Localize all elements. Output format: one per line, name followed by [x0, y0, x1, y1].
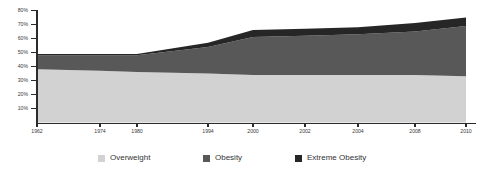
x-tick-label: 1962: [24, 129, 50, 134]
legend-label: Obesity: [215, 154, 242, 162]
area-series-overweight: [37, 69, 466, 122]
x-tick-label: 1980: [124, 129, 150, 134]
y-tick-mark: [31, 52, 36, 53]
x-tick-label: 2008: [402, 129, 428, 134]
x-tick-label: 1994: [195, 129, 221, 134]
y-tick-mark: [31, 38, 36, 39]
legend-swatch-icon: [98, 155, 105, 162]
x-tick-label: 2010: [453, 129, 479, 134]
legend-swatch-icon: [203, 155, 210, 162]
y-tick-mark: [31, 80, 36, 81]
y-tick-mark: [31, 94, 36, 95]
legend-item-obesity[interactable]: Obesity: [203, 154, 242, 162]
legend-label: Overweight: [110, 154, 150, 162]
x-axis-line: [36, 123, 476, 125]
chart-legend: OverweightObesityExtreme Obesity: [0, 150, 496, 172]
y-tick-mark: [31, 66, 36, 67]
y-tick-label: 40%: [4, 64, 28, 69]
x-tick-mark: [304, 123, 305, 127]
x-tick-label: 1974: [87, 129, 113, 134]
y-tick-label: 80%: [4, 8, 28, 13]
y-tick-mark: [31, 10, 36, 11]
x-tick-label: 2004: [345, 129, 371, 134]
y-axis-line: [36, 10, 38, 124]
legend-item-overweight[interactable]: Overweight: [98, 154, 150, 162]
area-series-group: [0, 0, 496, 133]
x-tick-label: 2000: [240, 129, 266, 134]
y-tick-label: 10%: [4, 106, 28, 111]
y-tick-label: 70%: [4, 22, 28, 27]
x-tick-mark: [99, 123, 100, 127]
legend-item-extreme-obesity[interactable]: Extreme Obesity: [295, 154, 366, 162]
x-tick-mark: [252, 123, 253, 127]
x-tick-mark: [207, 123, 208, 127]
plot-area: 80%70%60%50%40%30%20%10% 196219741980199…: [0, 0, 496, 133]
y-tick-label: 30%: [4, 78, 28, 83]
y-tick-label: 50%: [4, 50, 28, 55]
x-tick-mark: [136, 123, 137, 127]
y-tick-mark: [31, 108, 36, 109]
y-tick-mark: [31, 24, 36, 25]
x-tick-label: 2002: [292, 129, 318, 134]
x-tick-mark: [36, 123, 37, 127]
x-tick-mark: [357, 123, 358, 127]
stacked-area-chart: 80%70%60%50%40%30%20%10% 196219741980199…: [0, 0, 496, 180]
legend-label: Extreme Obesity: [307, 154, 366, 162]
y-tick-label: 60%: [4, 36, 28, 41]
x-tick-mark: [414, 123, 415, 127]
y-tick-label: 20%: [4, 92, 28, 97]
x-tick-mark: [465, 123, 466, 127]
legend-swatch-icon: [295, 155, 302, 162]
